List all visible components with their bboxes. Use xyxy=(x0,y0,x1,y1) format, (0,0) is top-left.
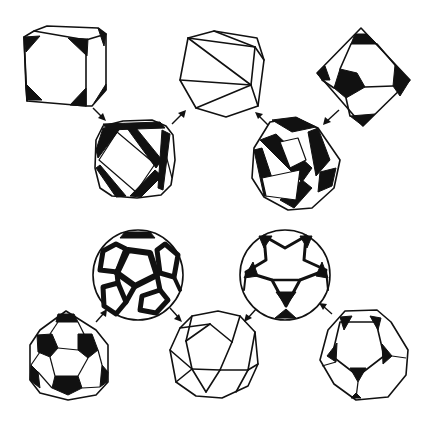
truncated-cube-drawing xyxy=(24,26,106,106)
truncated-dodecahedron-drawing xyxy=(320,310,408,400)
polyhedra-diagram xyxy=(0,0,435,429)
arrow-rhombicosidodecahedron-left-to-icosidodecahedron xyxy=(170,308,182,322)
cuboctahedron-drawing xyxy=(180,31,264,117)
arrow-truncated-dodecahedron-to-rhombicosidodecahedron xyxy=(319,303,332,314)
icosidodecahedron-drawing xyxy=(170,311,258,398)
rhombicuboctahedron-right-drawing xyxy=(252,117,340,210)
rhombicuboctahedron-left-drawing xyxy=(95,120,175,198)
arrow-truncated-octahedron-to-rhombicuboctahedron xyxy=(323,110,339,125)
arrow-truncated-icosahedron-to-rhombicosidodecahedron xyxy=(96,309,107,322)
arrow-rhombicosidodecahedron-right-to-icosidodecahedron xyxy=(244,308,257,322)
truncated-octahedron-drawing xyxy=(317,28,410,126)
arrow-rhombicuboctahedron-right-to-cuboctahedron xyxy=(255,112,268,125)
rhombicosidodecahedron-left-drawing xyxy=(93,230,183,320)
arrow-truncated-cube-to-rhombicuboctahedron xyxy=(93,108,106,121)
rhombicosidodecahedron-right-drawing xyxy=(240,230,330,320)
truncated-icosahedron-drawing xyxy=(30,311,108,400)
arrow-rhombicuboctahedron-left-to-cuboctahedron xyxy=(172,110,186,124)
